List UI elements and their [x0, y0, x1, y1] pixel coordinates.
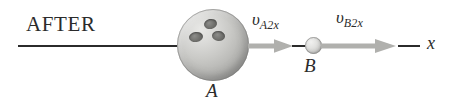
phase-label: AFTER	[26, 12, 96, 37]
body-label-b: B	[304, 55, 316, 77]
velocity-symbol-b: υ	[336, 8, 344, 27]
small-ball-b	[305, 37, 322, 54]
velocity-subscript-a: A2x	[260, 18, 279, 32]
velocity-symbol-a: υ	[252, 10, 260, 29]
velocity-subscript-b: B2x	[344, 16, 363, 30]
velocity-arrow-a	[248, 38, 294, 54]
body-label-a: A	[206, 80, 218, 102]
velocity-arrow-b	[321, 38, 397, 54]
ball-b-rim	[305, 37, 322, 54]
axis-line-right	[398, 45, 420, 47]
velocity-label-a: υA2x	[252, 10, 279, 33]
axis-label-x: x	[427, 33, 435, 54]
velocity-label-b: υB2x	[336, 8, 363, 31]
physics-collision-after-diagram: AFTER A υA2x B υB2x x	[0, 0, 458, 105]
axis-line-left	[18, 45, 188, 47]
bowling-ball-a	[177, 9, 249, 81]
